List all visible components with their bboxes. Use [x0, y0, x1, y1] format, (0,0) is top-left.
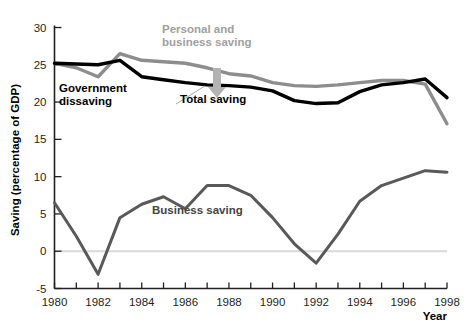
annotation-government-dissaving: Governmentdissaving [59, 82, 127, 107]
x-tick-label: 1984 [129, 296, 155, 308]
y-tick-label: 30 [34, 22, 47, 34]
y-tick-label: 20 [34, 96, 47, 108]
x-tick-label: 1994 [347, 296, 373, 308]
y-tick-label: 5 [40, 208, 46, 220]
y-axis-title: Saving (percentage of GDP) [9, 84, 21, 236]
x-tick-label: 1998 [434, 296, 460, 308]
x-tick-label: 1996 [391, 296, 417, 308]
x-tick-label: 1988 [216, 296, 242, 308]
y-tick-label: 25 [34, 59, 47, 71]
annotation-line: Total saving [180, 93, 246, 105]
y-tick-label: 0 [40, 245, 46, 257]
y-tick-label: -5 [36, 283, 46, 295]
annotation-business-saving: Business saving [152, 204, 243, 216]
x-tick-label: 1980 [42, 296, 68, 308]
chart-figure: 302520151050-5 1980198219841986198819901… [0, 0, 471, 324]
y-tick-label: 10 [34, 171, 47, 183]
x-tick-label: 1990 [260, 296, 286, 308]
x-axis-title: Year [423, 310, 448, 322]
series-line-business-saving [55, 171, 448, 275]
annotation-total-saving: Total saving [180, 93, 246, 105]
saving-percentage-of-gdp-line-chart: 302520151050-5 1980198219841986198819901… [0, 0, 471, 324]
x-tick-label: 1986 [173, 296, 199, 308]
annotation-line: dissaving [59, 95, 112, 107]
annotation-line: business saving [162, 36, 251, 48]
y-tick-label: 15 [34, 133, 47, 145]
x-tick-label: 1982 [85, 296, 111, 308]
x-axis: 1980198219841986198819901992199419961998 [42, 283, 460, 308]
annotation-line: Government [59, 82, 127, 94]
annotation-line: Business saving [152, 204, 243, 216]
x-tick-label: 1992 [303, 296, 329, 308]
annotation-line: Personal and [162, 23, 234, 35]
annotation-personal-and-business-saving: Personal andbusiness saving [162, 23, 251, 48]
